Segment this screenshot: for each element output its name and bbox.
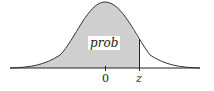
normal-curve-diagram: prob 0 z [0,0,214,91]
tick-label-z: z [136,73,142,84]
prob-label: prob [90,37,118,49]
tick-label-zero: 0 [102,73,109,84]
